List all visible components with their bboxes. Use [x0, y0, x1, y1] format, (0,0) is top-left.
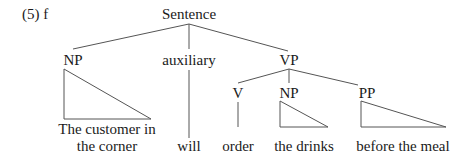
branch-sentence-vp	[189, 24, 288, 51]
branch-vp-v	[238, 69, 289, 83]
node-sentence: Sentence	[162, 6, 216, 22]
np-subject-triangle	[64, 69, 151, 119]
node-np-object: NP	[279, 85, 298, 101]
node-auxiliary: auxiliary	[162, 52, 216, 68]
branch-vp-pp	[289, 69, 358, 85]
leaf-will: will	[177, 138, 200, 154]
leaf-subject-line1: The customer in	[58, 121, 156, 137]
leaf-before-the-meal: before the meal	[356, 138, 449, 154]
node-vp: VP	[279, 52, 298, 68]
leaf-order: order	[222, 138, 254, 154]
node-pp: PP	[359, 85, 376, 101]
syntax-tree-diagram: (5) f Sentence NP The customer in the co…	[0, 0, 466, 162]
leaf-the-drinks: the drinks	[274, 138, 334, 154]
leaf-subject-line2: the corner	[77, 138, 137, 154]
np-object-triangle	[280, 101, 328, 127]
example-label: (5) f	[22, 6, 48, 23]
node-v: V	[233, 85, 244, 101]
branch-sentence-np	[73, 24, 189, 49]
node-np-subject: NP	[63, 52, 82, 68]
pp-triangle	[361, 101, 446, 127]
